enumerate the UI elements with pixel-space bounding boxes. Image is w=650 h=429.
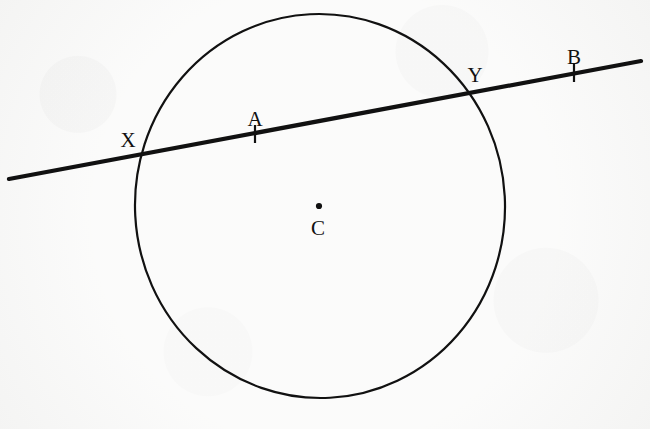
center-dot-c <box>316 203 322 209</box>
point-label-x: X <box>120 130 135 151</box>
point-label-a: A <box>247 109 262 130</box>
geometry-figure <box>0 0 650 429</box>
diagram-canvas: X A Y B C <box>0 0 650 429</box>
secant-line <box>9 61 641 179</box>
point-label-b: B <box>567 47 581 68</box>
point-label-y: Y <box>467 65 482 86</box>
point-label-c: C <box>311 218 325 239</box>
